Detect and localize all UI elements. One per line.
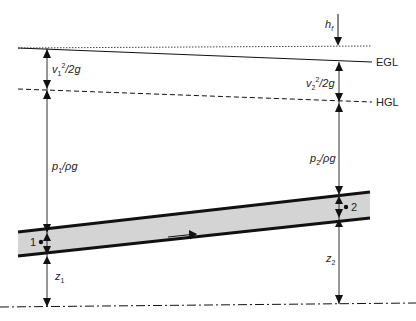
arrowhead-up-icon [43, 49, 51, 58]
egl-line [18, 48, 372, 62]
head-loss-label: hf [325, 18, 334, 32]
total-energy-line [18, 46, 372, 48]
pressure-head-2-label: p2/ρg [309, 152, 336, 166]
arrowhead-down-icon [43, 298, 51, 307]
velocity-head-2-label: v22/2g [306, 76, 335, 91]
arrowhead-down-icon [334, 37, 342, 46]
section-2-dimensions [335, 62, 343, 304]
point-1-label: 1 [30, 236, 36, 248]
elevation-2-label: z2 [325, 252, 336, 266]
elevation-1-label: z1 [54, 270, 65, 284]
pressure-head-1-label: p1/ρg [51, 160, 78, 174]
egl-label: EGL [376, 56, 398, 68]
energy-grade-line-diagram: 1 2 EGL HGL hf v12/2g v22/2g p1/ρg p2/ρg… [0, 0, 416, 321]
arrowhead-down-icon [335, 295, 343, 304]
arrowhead-up-icon [335, 103, 343, 112]
section-1-dimensions [43, 48, 51, 307]
arrowhead-up-icon [335, 62, 343, 71]
arrowhead-up-icon [43, 256, 51, 264]
hgl-line [18, 89, 372, 102]
arrowhead-up-icon [43, 90, 51, 99]
velocity-head-1-label: v12/2g [52, 62, 81, 77]
datum-line [0, 303, 416, 307]
arrowhead-down-icon [335, 186, 343, 195]
point-2-dot [344, 205, 348, 209]
arrowhead-down-icon [43, 80, 51, 89]
point-1-dot [39, 240, 43, 244]
pipe [18, 192, 370, 256]
hgl-label: HGL [376, 96, 399, 108]
point-2-label: 2 [351, 201, 357, 213]
